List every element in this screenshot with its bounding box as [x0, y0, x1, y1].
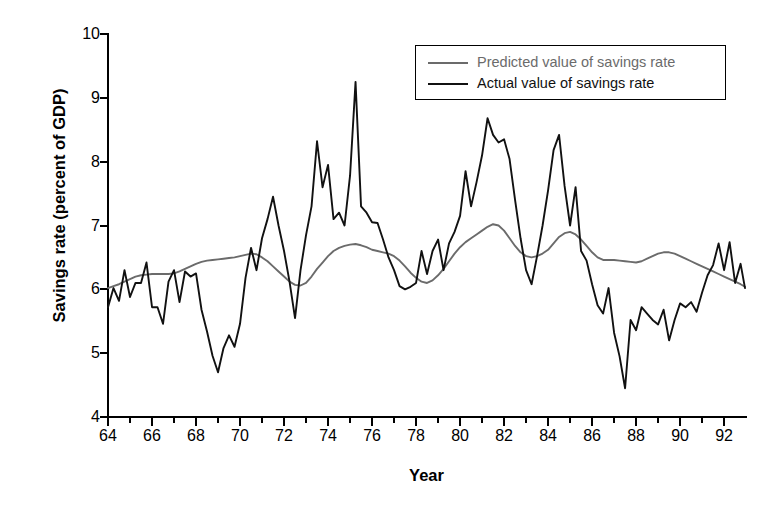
series-line-actual — [108, 82, 745, 388]
chart-legend: Predicted value of savings rate Actual v… — [415, 45, 726, 100]
x-tick-label: 70 — [220, 428, 260, 444]
legend-item-actual: Actual value of savings rate — [428, 73, 725, 94]
x-tick-label: 76 — [352, 428, 392, 444]
x-tick-label: 78 — [396, 428, 436, 444]
x-tick-label: 92 — [704, 428, 744, 444]
x-tick-label: 84 — [528, 428, 568, 444]
x-tick-label: 72 — [264, 428, 304, 444]
x-axis-title: Year — [108, 466, 745, 485]
data-series-lines — [108, 82, 745, 388]
y-tick-label: 5 — [74, 345, 100, 361]
legend-label-predicted: Predicted value of savings rate — [477, 55, 675, 70]
y-tick-label: 9 — [74, 90, 100, 106]
x-tick-label: 86 — [572, 428, 612, 444]
legend-line-swatch-predicted — [428, 62, 468, 64]
x-tick-label: 82 — [484, 428, 524, 444]
x-tick-label: 74 — [308, 428, 348, 444]
y-tick-label: 7 — [74, 218, 100, 234]
x-tick-label: 90 — [660, 428, 700, 444]
y-tick-label: 6 — [74, 281, 100, 297]
legend-line-swatch-actual — [428, 83, 468, 85]
series-line-predicted — [108, 224, 745, 288]
y-tick-label: 8 — [74, 154, 100, 170]
y-tick-label: 4 — [74, 409, 100, 425]
x-tick-label: 66 — [132, 428, 172, 444]
legend-item-predicted: Predicted value of savings rate — [428, 52, 725, 73]
y-axis-title: Savings rate (percent of GDP) — [50, 41, 69, 371]
legend-label-actual: Actual value of savings rate — [477, 76, 654, 91]
x-tick-label: 80 — [440, 428, 480, 444]
x-tick-label: 68 — [176, 428, 216, 444]
y-tick-label: 10 — [74, 26, 100, 42]
x-tick-label: 88 — [616, 428, 656, 444]
chart-container: Savings rate (percent of GDP) Year 10987… — [0, 0, 764, 515]
x-tick-label: 64 — [88, 428, 128, 444]
